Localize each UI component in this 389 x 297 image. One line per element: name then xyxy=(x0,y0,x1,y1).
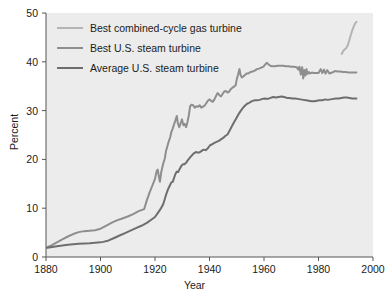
legend-item-label: Best combined-cycle gas turbine xyxy=(90,23,242,34)
x-tick-label: 1920 xyxy=(130,264,180,275)
y-tick-label: 0 xyxy=(0,252,38,263)
x-tick-label: 1960 xyxy=(239,264,289,275)
y-tick-label: 40 xyxy=(0,57,38,68)
y-tick-label: 50 xyxy=(0,8,38,19)
legend-item-label: Average U.S. steam turbine xyxy=(90,63,219,74)
series-line xyxy=(342,22,357,54)
legend-color-swatch xyxy=(57,47,83,50)
x-tick-label: 2000 xyxy=(348,264,389,275)
x-tick-label: 1900 xyxy=(76,264,126,275)
series-line xyxy=(47,63,356,247)
series-line xyxy=(47,96,356,247)
legend-item-label: Best U.S. steam turbine xyxy=(90,43,201,54)
chart-legend: Best combined-cycle gas turbineBest U.S.… xyxy=(57,22,242,74)
y-axis-title: Percent xyxy=(8,102,20,162)
legend-color-swatch xyxy=(57,67,83,70)
legend-item[interactable]: Average U.S. steam turbine xyxy=(57,62,242,74)
legend-item[interactable]: Best U.S. steam turbine xyxy=(57,42,242,54)
legend-item[interactable]: Best combined-cycle gas turbine xyxy=(57,22,242,34)
x-axis-title: Year xyxy=(0,279,389,291)
legend-color-swatch xyxy=(57,27,83,30)
chart-container: 01020304050 1880190019201940196019802000… xyxy=(0,0,389,297)
x-tick-label: 1980 xyxy=(294,264,344,275)
x-tick-label: 1940 xyxy=(185,264,235,275)
x-tick-label: 1880 xyxy=(21,264,71,275)
y-tick-label: 10 xyxy=(0,203,38,214)
